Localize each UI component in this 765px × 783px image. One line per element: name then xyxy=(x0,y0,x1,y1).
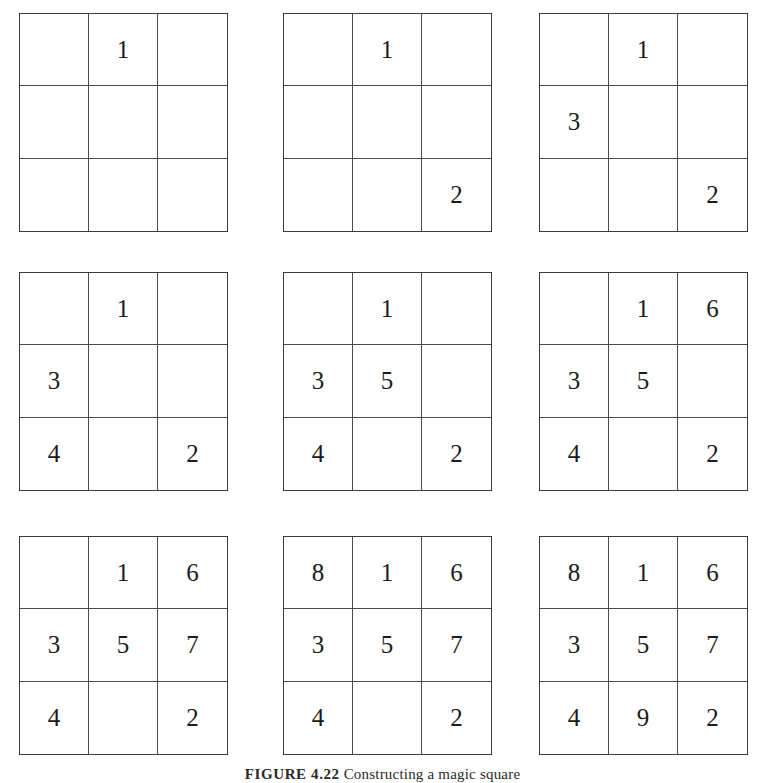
magic-square-step-5: 1 3 5 4 2 xyxy=(283,272,492,491)
figure-caption-text: Constructing a magic square xyxy=(344,766,521,782)
magic-square-row-1: 1 1 2 1 3 xyxy=(0,13,765,232)
grid-cell: 4 xyxy=(284,682,353,754)
grid-cell xyxy=(158,273,227,345)
grid-cell: 7 xyxy=(422,609,491,681)
grid-cell xyxy=(422,345,491,417)
grid-cell: 1 xyxy=(609,537,678,609)
grid-cell xyxy=(353,159,422,231)
grid-cell xyxy=(284,273,353,345)
grid-cell: 1 xyxy=(353,14,422,86)
magic-square-step-7: 1 6 3 5 7 4 2 xyxy=(19,536,228,755)
grid-cell: 7 xyxy=(158,609,227,681)
grid-cell: 1 xyxy=(89,14,158,86)
grid-cell xyxy=(353,418,422,490)
grid-cell xyxy=(284,14,353,86)
grid-cell: 1 xyxy=(89,273,158,345)
magic-square-step-4: 1 3 4 2 xyxy=(19,272,228,491)
grid-cell: 3 xyxy=(540,345,609,417)
grid-cell xyxy=(89,418,158,490)
magic-square-row-3: 1 6 3 5 7 4 2 8 1 6 3 5 7 4 2 8 1 6 3 5 … xyxy=(0,536,765,755)
grid-cell: 6 xyxy=(678,537,747,609)
grid-cell: 2 xyxy=(158,682,227,754)
grid-cell xyxy=(353,86,422,158)
grid-cell: 4 xyxy=(20,418,89,490)
grid-cell: 6 xyxy=(158,537,227,609)
grid-cell xyxy=(609,418,678,490)
grid-cell xyxy=(158,345,227,417)
grid-cell xyxy=(678,86,747,158)
grid-cell xyxy=(284,159,353,231)
grid-cell xyxy=(158,14,227,86)
grid-cell: 5 xyxy=(353,609,422,681)
grid-cell xyxy=(158,159,227,231)
grid-cell xyxy=(20,273,89,345)
grid-cell: 3 xyxy=(20,609,89,681)
magic-square-step-2: 1 2 xyxy=(283,13,492,232)
grid-cell: 3 xyxy=(284,345,353,417)
grid-cell xyxy=(422,86,491,158)
grid-cell xyxy=(20,86,89,158)
grid-cell xyxy=(609,86,678,158)
grid-cell xyxy=(89,682,158,754)
grid-cell: 2 xyxy=(422,682,491,754)
grid-cell: 4 xyxy=(20,682,89,754)
grid-cell: 2 xyxy=(422,159,491,231)
magic-square-row-2: 1 3 4 2 1 3 5 4 2 1 6 3 5 4 xyxy=(0,272,765,491)
grid-cell: 7 xyxy=(678,609,747,681)
grid-cell: 9 xyxy=(609,682,678,754)
magic-square-step-3: 1 3 2 xyxy=(539,13,748,232)
grid-cell: 2 xyxy=(678,682,747,754)
grid-cell: 3 xyxy=(540,609,609,681)
grid-cell: 5 xyxy=(609,609,678,681)
grid-cell xyxy=(609,159,678,231)
grid-cell xyxy=(540,273,609,345)
grid-cell: 6 xyxy=(422,537,491,609)
grid-cell: 2 xyxy=(158,418,227,490)
grid-cell: 8 xyxy=(540,537,609,609)
grid-cell xyxy=(89,159,158,231)
grid-cell: 3 xyxy=(540,86,609,158)
grid-cell: 1 xyxy=(609,14,678,86)
grid-cell xyxy=(540,159,609,231)
grid-cell xyxy=(20,537,89,609)
grid-cell xyxy=(353,682,422,754)
grid-cell: 1 xyxy=(89,537,158,609)
magic-square-step-9: 8 1 6 3 5 7 4 9 2 xyxy=(539,536,748,755)
grid-cell: 1 xyxy=(353,273,422,345)
grid-cell: 3 xyxy=(284,609,353,681)
magic-square-step-1: 1 xyxy=(19,13,228,232)
grid-cell: 1 xyxy=(609,273,678,345)
grid-cell xyxy=(422,14,491,86)
grid-cell xyxy=(20,159,89,231)
grid-cell: 3 xyxy=(20,345,89,417)
grid-cell xyxy=(284,86,353,158)
grid-cell: 5 xyxy=(89,609,158,681)
figure-label: FIGURE 4.22 xyxy=(245,766,340,782)
grid-cell xyxy=(678,14,747,86)
grid-cell: 4 xyxy=(540,418,609,490)
grid-cell xyxy=(20,14,89,86)
grid-cell xyxy=(89,345,158,417)
grid-cell: 1 xyxy=(353,537,422,609)
grid-cell xyxy=(422,273,491,345)
magic-square-step-8: 8 1 6 3 5 7 4 2 xyxy=(283,536,492,755)
grid-cell: 2 xyxy=(422,418,491,490)
grid-cell xyxy=(678,345,747,417)
grid-cell: 4 xyxy=(284,418,353,490)
grid-cell: 5 xyxy=(609,345,678,417)
grid-cell xyxy=(158,86,227,158)
grid-cell xyxy=(89,86,158,158)
grid-cell: 2 xyxy=(678,418,747,490)
grid-cell: 2 xyxy=(678,159,747,231)
magic-square-step-6: 1 6 3 5 4 2 xyxy=(539,272,748,491)
figure-caption: FIGURE 4.22 Constructing a magic square xyxy=(0,766,765,783)
grid-cell xyxy=(540,14,609,86)
grid-cell: 5 xyxy=(353,345,422,417)
grid-cell: 8 xyxy=(284,537,353,609)
grid-cell: 6 xyxy=(678,273,747,345)
grid-cell: 4 xyxy=(540,682,609,754)
